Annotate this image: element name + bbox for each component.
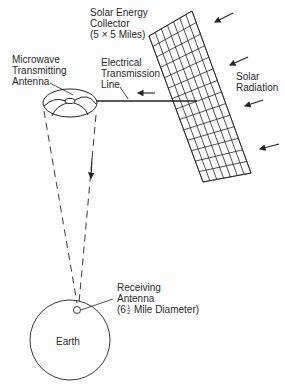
transmitter-label: Microwave Transmitting Antenna	[12, 54, 67, 87]
solar-radiation-arrow-3	[245, 100, 263, 106]
receiver-label: Receiving Antenna (612 Mile Diameter)	[117, 282, 199, 315]
microwave-beam	[44, 111, 96, 303]
earth-label: Earth	[56, 336, 80, 347]
solar-radiation-arrow-2	[230, 57, 248, 65]
solar-radiation-arrow-4	[260, 144, 279, 149]
collector-label: Solar Energy Collector (5 × 5 Miles)	[90, 7, 148, 40]
solar-radiation-label: Solar Radiation	[236, 71, 278, 93]
solar-collector-panel	[149, 11, 251, 182]
transmission-line-label: Electrical Transmission Line	[101, 57, 160, 90]
beam-direction-arrow	[91, 158, 92, 178]
solar-radiation-arrow-1	[215, 13, 233, 22]
solar-power-satellite-diagram: Solar Energy Collector (5 × 5 Miles) Mic…	[0, 0, 285, 385]
fraction-one-half: 12	[127, 305, 130, 315]
receiving-antenna-circle	[74, 307, 81, 314]
leader-lines	[50, 83, 128, 310]
